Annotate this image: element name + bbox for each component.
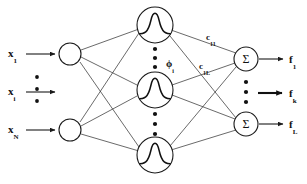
sigma-glyph-outL: Σ <box>243 117 250 131</box>
ellipsis-dot <box>244 100 248 104</box>
hidden-ellipsis-dots-upper <box>153 47 157 69</box>
hidden-nodes <box>136 7 174 173</box>
sigma-glyph-out1: Σ <box>243 52 250 66</box>
hidden-ellipsis-dots-lower <box>153 112 157 136</box>
output-label-fk-sub: k <box>293 97 297 105</box>
edge-inN-hidmid <box>81 96 137 126</box>
weight-label-c1L: c1L <box>199 56 210 74</box>
edge-inN-hid1 <box>80 33 139 122</box>
ellipsis-dot <box>153 112 157 116</box>
input-label-x1-base: x <box>8 47 14 59</box>
output-label-fL: fL <box>289 115 297 134</box>
network-canvas: Σ Σ <box>0 0 307 184</box>
hidden-node-1[interactable] <box>137 7 173 43</box>
weight-label-c11-sub: 11 <box>210 41 216 47</box>
hidden-label-phi-i: ϕi <box>166 54 174 72</box>
edge-in1-hid1 <box>81 29 139 50</box>
ellipsis-dot <box>35 99 39 103</box>
ellipsis-dot <box>153 132 157 136</box>
ellipsis-dot <box>35 75 39 79</box>
ellipsis-dot <box>153 56 157 60</box>
output-arrows <box>258 59 283 124</box>
ellipsis-dot <box>153 65 157 69</box>
edge-hidmid-outL <box>172 95 235 119</box>
output-label-fL-sub: L <box>293 128 298 136</box>
hidden-label-phi-sub: i <box>172 68 174 74</box>
weight-label-c11: c11 <box>206 27 216 45</box>
output-ellipsis-dots <box>244 80 248 104</box>
weight-label-c1L-sub: 1L <box>203 70 210 76</box>
input-ellipsis-dots <box>35 75 39 103</box>
edge-hid1-outL <box>170 36 236 118</box>
edge-inN-hidM <box>81 134 139 151</box>
input-arrows <box>26 54 55 130</box>
edge-in1-hidmid <box>81 57 137 85</box>
output-label-f1-sub: 1 <box>293 63 297 71</box>
ellipsis-dot <box>153 47 157 51</box>
edges-hidden-to-output <box>170 30 236 150</box>
edge-hidM-out1 <box>170 67 236 146</box>
input-node-1[interactable] <box>59 43 81 65</box>
input-label-xN-sub: N <box>14 133 19 141</box>
output-label-f1: f1 <box>289 50 296 69</box>
input-label-xN-base: x <box>8 123 14 135</box>
output-label-fk: fk <box>289 84 297 103</box>
edge-in1-hidM <box>80 62 139 147</box>
input-label-xi: xi <box>8 82 15 101</box>
hidden-node-mid[interactable] <box>137 72 173 108</box>
edges-input-to-hidden <box>80 29 139 151</box>
input-label-x1-sub: 1 <box>14 57 18 65</box>
input-nodes <box>59 43 81 141</box>
input-label-xi-base: x <box>8 85 14 97</box>
input-node-N[interactable] <box>59 119 81 141</box>
ellipsis-dot <box>35 87 39 91</box>
input-label-x1: x1 <box>8 44 17 63</box>
ellipsis-dot <box>244 90 248 94</box>
hidden-node-M[interactable] <box>137 137 173 173</box>
input-label-xN: xN <box>8 120 19 139</box>
ellipsis-dot <box>153 122 157 126</box>
rbf-network-diagram: Σ Σ x1 xi xN ϕi c11 c1L f1 fk fL <box>0 0 307 184</box>
ellipsis-dot <box>244 80 248 84</box>
